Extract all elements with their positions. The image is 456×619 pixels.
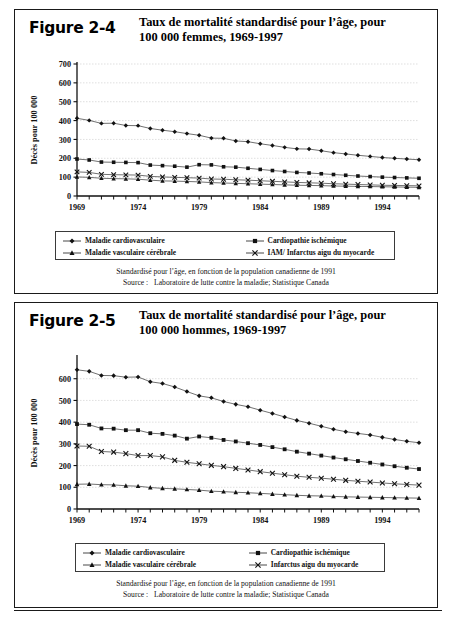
svg-text:0: 0 [67,192,71,201]
legend-entry: IAM/ Infarctus aigu du myocarde [245,248,388,258]
svg-text:600: 600 [59,375,71,384]
svg-text:400: 400 [59,418,71,427]
square-marker-icon [245,236,265,246]
legend-entry: Maladie vasculaire cérébrale [82,560,248,570]
cross-marker-icon [248,560,268,570]
legend-row: Maladie cardiovasculaireCardiopathie isc… [62,235,388,247]
svg-text:500: 500 [59,98,71,107]
triangle-marker-icon [62,248,82,258]
figure-panel-2-5: Figure 2-5 Taux de mortalité standardisé… [14,302,438,608]
footnote-source-value: Laboratoire de lutte contre la maladie; … [154,278,329,287]
figure-title-line2: 100 000 femmes, 1969-1997 [139,30,283,44]
chart-area-2-4: 0100200300400500600700196919741979198419… [15,56,437,216]
svg-text:700: 700 [59,60,71,69]
line-chart-2-4: 0100200300400500600700196919741979198419… [15,56,435,216]
figure-label-2-5: Figure 2-5 [29,312,116,330]
legend-row: Maladie cardiovasculaireCardiopathie isc… [82,547,378,559]
svg-text:200: 200 [59,154,71,163]
legend-entry: Cardiopathie ischémique [245,236,388,246]
footnote-standardisation: Standardisé pour l’âge, en fonction de l… [15,266,437,277]
footnote-source-label: Source : [123,590,148,599]
figure-title-2-5: Taux de mortalité standardisé pour l’âge… [139,308,429,338]
figure-footnote-2-5: Standardisé pour l’âge, en fonction de l… [15,578,437,600]
svg-text:1969: 1969 [69,516,85,525]
svg-text:1994: 1994 [374,203,390,212]
diamond-marker-icon [82,548,102,558]
figure-title-2-4: Taux de mortalité standardisé pour l’âge… [139,15,429,45]
legend-label: Cardiopathie ischémique [268,236,347,246]
legend-entry: Maladie cardiovasculaire [82,548,248,558]
figure-title-line1: Taux de mortalité standardisé pour l’âge… [139,308,386,322]
legend-label: Maladie vasculaire cérébrale [105,560,196,570]
figure-title-line2: 100 000 hommes, 1969-1997 [139,323,286,337]
svg-text:300: 300 [59,440,71,449]
svg-text:300: 300 [59,136,71,145]
legend-label: Maladie vasculaire cérébrale [85,248,176,258]
page-bottom-rule [14,610,442,611]
legend-label: IAM/ Infarctus aigu du myocarde [268,248,375,258]
footnote-source: Source : Laboratoire de lutte contre la … [15,589,437,600]
triangle-marker-icon [82,560,102,570]
svg-text:100: 100 [59,483,71,492]
svg-text:1974: 1974 [130,203,146,212]
footnote-source-label: Source : [123,278,148,287]
chart-area-2-5: 0100200300400500600196919741979198419891… [15,349,437,529]
chart-legend-2-5: Maladie cardiovasculaireCardiopathie isc… [75,543,385,572]
svg-text:1974: 1974 [130,516,146,525]
legend-label: Maladie cardiovasculaire [85,236,165,246]
legend-entry: Maladie cardiovasculaire [62,236,245,246]
page-bottom-clipped-text [16,612,442,619]
line-chart-2-5: 0100200300400500600196919741979198419891… [15,349,435,529]
figure-header-2-4: Figure 2-4 Taux de mortalité standardisé… [15,10,437,56]
figure-title-line1: Taux de mortalité standardisé pour l’âge… [139,15,386,29]
legend-label: Maladie cardiovasculaire [105,548,185,558]
square-marker-icon [248,548,268,558]
legend-entry: Cardiopathie ischémique [248,548,378,558]
svg-text:500: 500 [59,397,71,406]
svg-text:1989: 1989 [313,203,329,212]
footnote-source: Source : Laboratoire de lutte contre la … [15,277,437,288]
cross-marker-icon [245,248,265,258]
figure-header-2-5: Figure 2-5 Taux de mortalité standardisé… [15,303,437,349]
svg-text:1979: 1979 [191,203,207,212]
diamond-marker-icon [62,236,82,246]
svg-text:Décès pour 100 000: Décès pour 100 000 [30,399,39,468]
figure-label-2-4: Figure 2-4 [29,19,116,37]
svg-text:1979: 1979 [191,516,207,525]
legend-row: Maladie vasculaire cérébraleInfarctus ai… [82,559,378,571]
legend-entry: Infarctus aigu du myocarde [248,560,378,570]
svg-text:1969: 1969 [69,203,85,212]
legend-row: Maladie vasculaire cérébraleIAM/ Infarct… [62,247,388,259]
svg-text:1984: 1984 [252,516,268,525]
legend-entry: Maladie vasculaire cérébrale [62,248,245,258]
chart-legend-2-4: Maladie cardiovasculaireCardiopathie isc… [55,231,395,260]
svg-text:0: 0 [67,505,71,514]
legend-label: Infarctus aigu du myocarde [271,560,359,570]
svg-text:1984: 1984 [252,203,268,212]
svg-text:400: 400 [59,117,71,126]
svg-text:200: 200 [59,462,71,471]
svg-text:Décès pour 100 000: Décès pour 100 000 [30,96,39,165]
legend-label: Cardiopathie ischémique [271,548,350,558]
svg-text:100: 100 [59,173,71,182]
svg-text:1994: 1994 [374,516,390,525]
document-page: Figure 2-4 Taux de mortalité standardisé… [0,0,456,619]
svg-text:600: 600 [59,79,71,88]
figure-footnote-2-4: Standardisé pour l’âge, en fonction de l… [15,266,437,288]
figure-panel-2-4: Figure 2-4 Taux de mortalité standardisé… [14,9,438,294]
footnote-standardisation: Standardisé pour l’âge, en fonction de l… [15,578,437,589]
svg-text:1989: 1989 [313,516,329,525]
footnote-source-value: Laboratoire de lutte contre la maladie; … [154,590,329,599]
